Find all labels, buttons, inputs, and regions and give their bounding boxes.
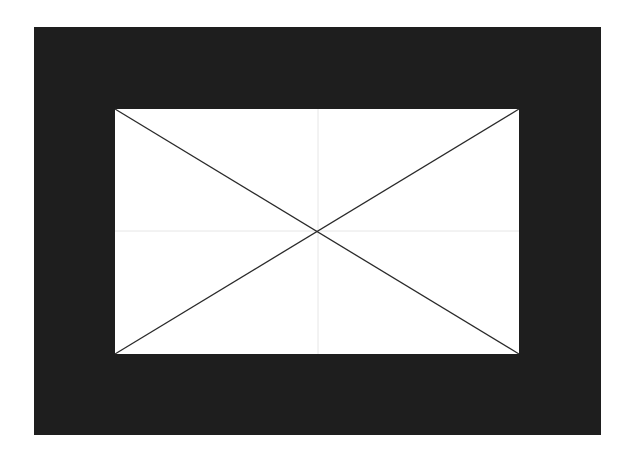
image-placeholder-icon xyxy=(0,0,634,459)
placeholder-canvas xyxy=(0,0,634,459)
